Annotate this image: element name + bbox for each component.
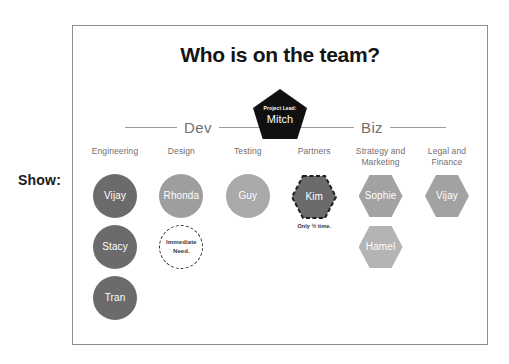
column-members: VijayStacyTran <box>93 174 137 320</box>
team-columns: EngineeringVijayStacyTranDesignRhondaImm… <box>85 146 477 320</box>
team-member[interactable]: Tran <box>93 276 137 320</box>
member-name: Kim <box>305 192 323 202</box>
group-label-dev: Dev <box>184 119 212 136</box>
divider-line-left <box>298 127 354 128</box>
team-member[interactable]: Immediate Need. <box>159 225 203 269</box>
divider-line-left <box>125 127 177 128</box>
team-column: EngineeringVijayStacyTran <box>85 146 145 320</box>
member-shape-circle[interactable]: Stacy <box>93 225 137 269</box>
team-member[interactable]: Sophie <box>359 174 403 218</box>
column-members: KimOnly ½ time. <box>291 174 337 229</box>
team-column: PartnersKimOnly ½ time. <box>284 146 344 229</box>
project-lead-pentagon: Project Lead: Mitch <box>253 89 307 139</box>
column-header: Partners <box>298 146 331 168</box>
column-header: Design <box>168 146 195 168</box>
group-label-biz: Biz <box>361 119 383 136</box>
show-label: Show: <box>18 172 61 188</box>
member-shape-placeholder-circle[interactable]: Immediate Need. <box>159 225 203 269</box>
member-shape-circle[interactable]: Vijay <box>93 174 137 218</box>
team-column: DesignRhondaImmediate Need. <box>151 146 211 269</box>
column-header: Strategy and Marketing <box>351 146 411 168</box>
member-name: Vijay <box>104 191 126 201</box>
column-header: Legal and Finance <box>417 146 477 168</box>
team-member[interactable]: Stacy <box>93 225 137 269</box>
column-header: Engineering <box>92 146 138 168</box>
member-shape-hexagon[interactable]: Hamel <box>359 225 403 269</box>
column-header: Testing <box>234 146 262 168</box>
member-name: Sophie <box>365 191 397 201</box>
member-name: Rhonda <box>164 191 200 201</box>
project-lead-name: Mitch <box>267 113 293 126</box>
group-band-biz: Biz <box>298 119 446 136</box>
member-note: Only ½ time. <box>298 223 331 229</box>
slide-canvas: Show: Who is on the team? Dev Biz Projec… <box>0 0 509 364</box>
member-shape-hexagon[interactable]: Vijay <box>425 174 469 218</box>
project-lead-role-label: Project Lead: <box>264 106 297 111</box>
team-column: Legal and FinanceVijay <box>417 146 477 218</box>
member-name: Tran <box>105 293 126 303</box>
member-shape-hexagon-dashed[interactable]: Kim <box>291 174 337 220</box>
team-member[interactable]: Rhonda <box>159 174 203 218</box>
member-shape-circle[interactable]: Tran <box>93 276 137 320</box>
divider-line-right <box>390 127 446 128</box>
column-members: RhondaImmediate Need. <box>159 174 203 269</box>
column-members: Vijay <box>425 174 469 218</box>
member-name: Hamel <box>366 242 395 252</box>
column-members: Guy <box>226 174 270 218</box>
placeholder-label: Immediate Need. <box>160 238 202 255</box>
member-shape-hexagon[interactable]: Sophie <box>359 174 403 218</box>
member-name: Guy <box>238 191 257 201</box>
member-shape-circle[interactable]: Guy <box>226 174 270 218</box>
team-column: TestingGuy <box>218 146 278 218</box>
team-member[interactable]: KimOnly ½ time. <box>291 174 337 229</box>
page-title: Who is on the team? <box>73 43 487 67</box>
team-diagram-card: Who is on the team? Dev Biz Project Lead… <box>72 25 488 345</box>
team-member[interactable]: Vijay <box>93 174 137 218</box>
group-band-dev: Dev <box>125 119 271 136</box>
team-member[interactable]: Vijay <box>425 174 469 218</box>
member-name: Vijay <box>436 191 458 201</box>
member-shape-circle[interactable]: Rhonda <box>159 174 203 218</box>
team-column: Strategy and MarketingSophieHamel <box>351 146 411 269</box>
team-member[interactable]: Hamel <box>359 225 403 269</box>
column-members: SophieHamel <box>359 174 403 269</box>
member-name: Stacy <box>102 242 128 252</box>
team-member[interactable]: Guy <box>226 174 270 218</box>
